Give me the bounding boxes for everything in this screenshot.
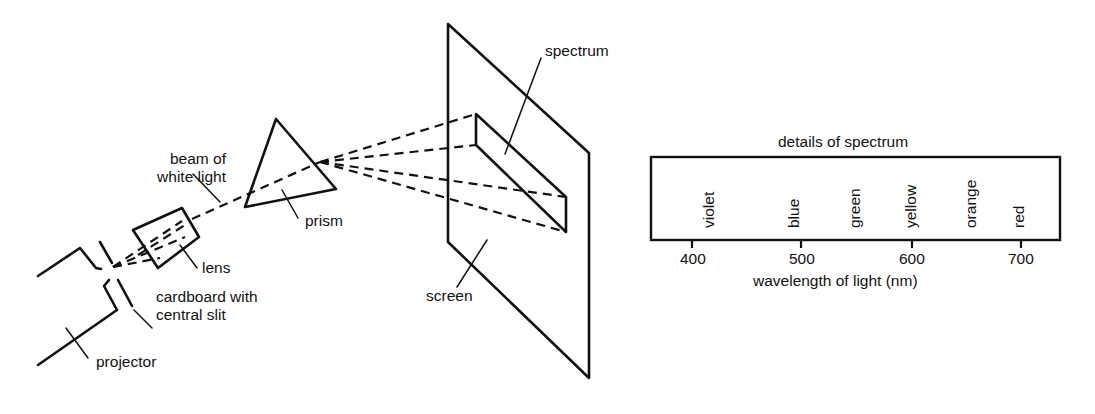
spectrum-patch xyxy=(476,114,566,232)
label-cardboard: cardboard with central slit xyxy=(156,288,258,324)
cardboard-upper xyxy=(100,242,112,263)
color-label-blue: blue xyxy=(785,199,803,228)
cardboard-lower xyxy=(118,280,132,306)
color-label-yellow: yellow xyxy=(902,185,920,228)
color-label-green: green xyxy=(846,188,864,228)
beam-ray-2 xyxy=(113,237,185,267)
prism-leader xyxy=(282,190,298,218)
cardboard-leader xyxy=(134,310,152,328)
label-beam: beam of white light xyxy=(116,150,226,186)
beam-ray-lens xyxy=(138,225,185,255)
color-label-orange: orange xyxy=(962,180,980,228)
color-label-red: red xyxy=(1010,206,1028,228)
axis-tick-700: 700 xyxy=(1008,250,1034,268)
axis-tick-400: 400 xyxy=(680,250,706,268)
lens-leader xyxy=(180,245,197,268)
spectrum-leader xyxy=(505,58,541,154)
label-spectrum: spectrum xyxy=(545,42,609,60)
dispersed-ray-3 xyxy=(320,162,566,197)
dispersed-ray-violet-edge xyxy=(320,114,476,162)
color-label-violet: violet xyxy=(700,192,718,228)
spectrum-details-title: details of spectrum xyxy=(778,133,908,151)
axis-label: wavelength of light (nm) xyxy=(753,272,918,290)
label-prism: prism xyxy=(305,212,343,230)
dispersed-ray-2 xyxy=(320,145,476,162)
label-projector: projector xyxy=(96,353,156,371)
label-lens: lens xyxy=(202,259,230,277)
experiment-diagram xyxy=(0,0,1095,414)
screen xyxy=(448,24,589,378)
label-screen: screen xyxy=(426,287,473,305)
screen-leader xyxy=(457,240,487,287)
projector-upper-outline xyxy=(38,248,101,276)
axis-tick-600: 600 xyxy=(899,250,925,268)
axis-tick-500: 500 xyxy=(789,250,815,268)
